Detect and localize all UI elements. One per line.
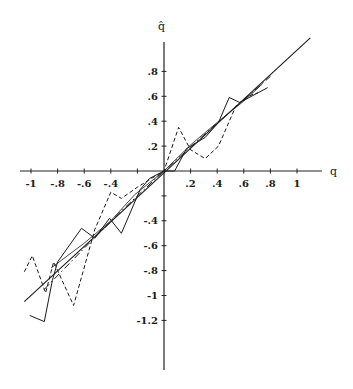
x-tick-label: .6 <box>239 178 249 189</box>
x-tick-label: -.6 <box>77 178 92 189</box>
x-tick-label: -1 <box>25 178 36 189</box>
series-line <box>24 93 258 306</box>
y-tick-label: -.4 <box>143 215 158 226</box>
axes <box>20 42 322 370</box>
x-tick-label: .4 <box>212 178 222 189</box>
x-tick-label: .8 <box>265 178 275 189</box>
x-tick-label: -.4 <box>104 178 119 189</box>
axis-ticks: -1-.8-.6-.4.2.4.6.81.8.6.4.2-.4-.6-.8-1-… <box>25 66 300 326</box>
x-tick-label: .2 <box>185 178 195 189</box>
y-tick-label: .2 <box>148 141 158 152</box>
y-tick-label: .6 <box>148 91 158 102</box>
y-tick-label: -.6 <box>143 240 158 251</box>
y-tick-label: -1.2 <box>136 315 158 326</box>
y-tick-label: -1 <box>147 290 158 301</box>
chart: -1-.8-.6-.4.2.4.6.81.8.6.4.2-.4-.6-.8-1-… <box>0 0 353 389</box>
y-tick-label: .4 <box>148 116 158 127</box>
y-tick-label: .8 <box>148 66 158 77</box>
y-tick-label: -.8 <box>143 265 158 276</box>
series-line <box>24 38 310 302</box>
y-axis-label: q̂ <box>158 20 165 33</box>
x-axis-label: q <box>330 165 337 178</box>
x-tick-label: -.8 <box>50 178 65 189</box>
x-tick-label: 1 <box>294 178 301 189</box>
